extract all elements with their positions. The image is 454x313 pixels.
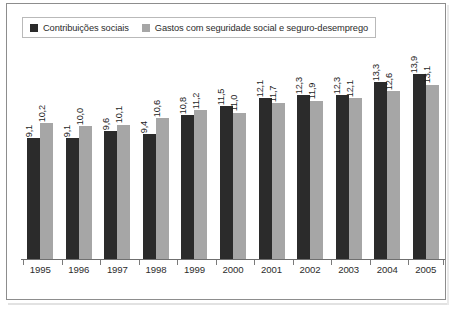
bar-value-label: 9,1 [63, 125, 72, 137]
bar-value-label-slot: 11,0 [233, 87, 246, 113]
bar-contribuicoes-sociais: 9,1 [27, 138, 40, 259]
bar-group: 9,110,2 [21, 46, 60, 259]
bar-contribuicoes-sociais: 9,6 [104, 131, 117, 259]
bar-group: 13,312,6 [368, 46, 407, 259]
bar: 10,6 [156, 118, 169, 259]
bar-gastos-seguridade-social: 12,1 [349, 98, 362, 259]
x-axis-label: 1997 [107, 264, 128, 275]
bar-value-label: 11,9 [307, 83, 316, 99]
bar: 11,7 [272, 103, 285, 259]
bar: 11,5 [220, 106, 233, 259]
bar-gastos-seguridade-social: 11,2 [194, 110, 207, 259]
bar-contribuicoes-sociais: 11,5 [220, 106, 233, 259]
bar-value-label-slot: 10,0 [79, 100, 92, 126]
bar: 13,3 [374, 82, 387, 259]
bar: 10,8 [181, 115, 194, 259]
x-axis-tick [23, 260, 24, 265]
bar-value-label: 13,3 [371, 64, 380, 81]
bar-group: 9,610,1 [98, 46, 137, 259]
x-axis-tick [331, 260, 332, 265]
plot-area: 9,110,29,110,09,610,19,410,610,811,211,5… [21, 46, 445, 259]
x-axis-label: 1998 [145, 264, 166, 275]
bar-contribuicoes-sociais: 12,1 [259, 98, 272, 259]
legend-square-light-icon [142, 24, 150, 32]
bar-contribuicoes-sociais: 12,3 [336, 95, 349, 259]
x-axis-tick [370, 260, 371, 265]
figure-frame: Contribuições sociais Gastos com segurid… [6, 3, 446, 300]
bar: 9,1 [27, 138, 40, 259]
bar-gastos-seguridade-social: 10,1 [117, 125, 130, 259]
legend-item-contribuicoes-sociais: Contribuições sociais [30, 23, 129, 33]
x-axis-tick [62, 260, 63, 265]
legend-item-gastos-seguridade-social: Gastos com seguridade social e seguro-de… [142, 23, 368, 33]
bar-value-label-slot: 13,1 [426, 59, 439, 85]
bar-value-label-slot: 10,6 [156, 92, 169, 118]
bar-gastos-seguridade-social: 10,6 [156, 118, 169, 259]
bar-value-label-slot: 11,2 [194, 84, 207, 110]
x-axis-label: 2005 [415, 264, 436, 275]
x-axis-tick [254, 260, 255, 265]
bar: 12,3 [336, 95, 349, 259]
x-axis-tick [139, 260, 140, 265]
bar-value-label: 11,2 [192, 93, 201, 109]
bar: 9,4 [143, 134, 156, 259]
bar-value-label: 10,0 [76, 108, 85, 125]
bar-gastos-seguridade-social: 11,9 [310, 101, 323, 259]
bar-gastos-seguridade-social: 10,2 [40, 123, 53, 259]
bar-value-label: 9,4 [140, 121, 149, 133]
bar: 11,9 [310, 101, 323, 259]
bar-contribuicoes-sociais: 13,3 [374, 82, 387, 259]
bar-value-label: 10,6 [153, 100, 162, 117]
bar-contribuicoes-sociais: 12,3 [297, 95, 310, 259]
bar-value-label: 12,1 [256, 80, 265, 97]
x-axis-label: 2000 [223, 264, 244, 275]
bar-value-label: 11,5 [217, 89, 226, 105]
bar-value-label: 9,6 [102, 118, 111, 130]
bar: 11,0 [233, 113, 246, 259]
x-axis: 1995199619971998199920002001200220032004… [21, 260, 445, 280]
bar-value-label-slot: 12,1 [349, 72, 362, 98]
bar-value-label: 11,7 [269, 86, 278, 102]
bar: 9,6 [104, 131, 117, 259]
bar: 12,6 [387, 91, 400, 259]
bar-value-label: 9,1 [25, 125, 34, 137]
bar-gastos-seguridade-social: 11,7 [272, 103, 285, 259]
bar: 12,3 [297, 95, 310, 259]
bar-gastos-seguridade-social: 12,6 [387, 91, 400, 259]
bar-group: 9,110,0 [60, 46, 99, 259]
bar-contribuicoes-sociais: 13,9 [413, 74, 426, 259]
bar-gastos-seguridade-social: 11,0 [233, 113, 246, 259]
bar-group: 11,511,0 [214, 46, 253, 259]
x-axis-label: 1999 [184, 264, 205, 275]
bar-value-label: 12,6 [384, 73, 393, 90]
bar-group: 9,410,6 [137, 46, 176, 259]
bar-contribuicoes-sociais: 10,8 [181, 115, 194, 259]
bar-value-label: 12,3 [294, 77, 303, 94]
x-axis-tick [443, 260, 444, 265]
x-axis-label: 2002 [300, 264, 321, 275]
bar-group: 10,811,2 [175, 46, 214, 259]
bar-contribuicoes-sociais: 9,1 [66, 138, 79, 259]
bar-value-label: 10,8 [179, 97, 188, 114]
x-axis-label: 2004 [377, 264, 398, 275]
bar-gastos-seguridade-social: 10,0 [79, 126, 92, 259]
bar: 10,2 [40, 123, 53, 259]
x-axis-tick [293, 260, 294, 265]
x-axis-label: 2003 [338, 264, 359, 275]
x-axis-tick [216, 260, 217, 265]
x-axis-label: 2001 [261, 264, 282, 275]
bar-value-label-slot: 11,7 [272, 77, 285, 103]
bar-value-label-slot: 11,9 [310, 75, 323, 101]
chart-legend: Contribuições sociais Gastos com segurid… [22, 17, 376, 38]
bar-group: 13,913,1 [406, 46, 445, 259]
bar-value-label: 12,1 [346, 80, 355, 97]
x-axis-tick [408, 260, 409, 265]
bar-group: 12,111,7 [252, 46, 291, 259]
bar-value-label: 10,1 [115, 106, 124, 123]
bar-value-label: 13,1 [423, 67, 432, 84]
x-axis-label: 1995 [30, 264, 51, 275]
bar-value-label-slot: 10,2 [40, 97, 53, 123]
legend-item-label: Contribuições sociais [43, 23, 129, 33]
scan-edge-shadow-right [447, 5, 449, 305]
bar-group: 12,312,1 [329, 46, 368, 259]
